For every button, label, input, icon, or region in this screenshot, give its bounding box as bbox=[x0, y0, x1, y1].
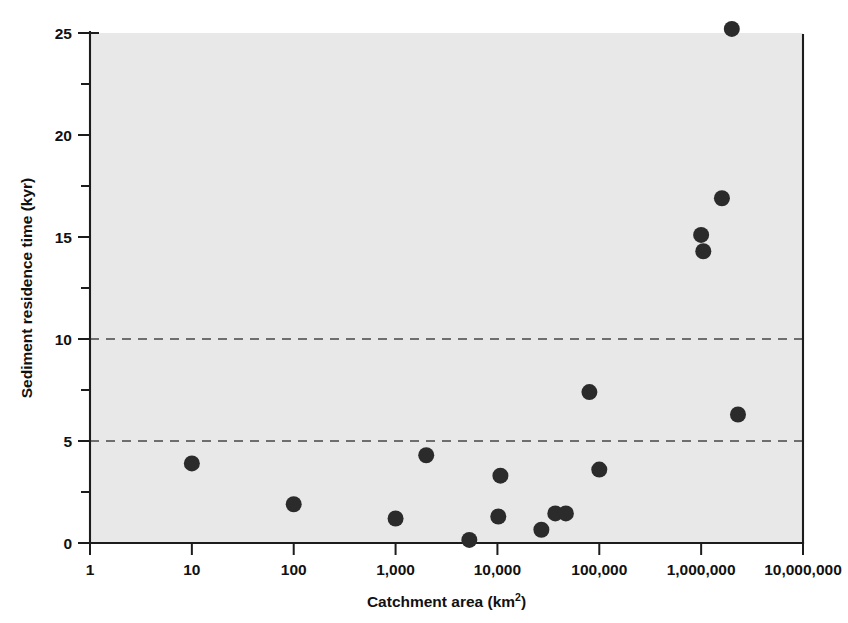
y-tick-label: 0 bbox=[63, 535, 72, 552]
x-axis-tick-labels: 1101001,00010,000100,0001,000,00010,000,… bbox=[86, 561, 842, 578]
x-axis-title-text: Catchment area (km2) bbox=[367, 591, 526, 610]
x-tick-label: 100,000 bbox=[571, 561, 627, 578]
x-axis-title-main: Catchment area (km bbox=[367, 593, 515, 610]
data-point bbox=[730, 406, 746, 422]
data-point bbox=[418, 447, 434, 463]
x-axis-title-suffix: ) bbox=[521, 593, 526, 610]
data-point bbox=[184, 455, 200, 471]
data-point bbox=[714, 190, 730, 206]
data-point bbox=[492, 468, 508, 484]
data-point bbox=[591, 462, 607, 478]
data-point bbox=[286, 496, 302, 512]
data-point bbox=[693, 227, 709, 243]
x-tick-label: 100 bbox=[281, 561, 307, 578]
x-tick-label: 10 bbox=[183, 561, 200, 578]
y-tick-label: 15 bbox=[55, 229, 73, 246]
x-tick-label: 1 bbox=[86, 561, 95, 578]
y-tick-label: 10 bbox=[55, 331, 72, 348]
data-point bbox=[461, 532, 477, 548]
x-tick-label: 1,000,000 bbox=[667, 561, 736, 578]
y-tick-label: 25 bbox=[55, 25, 73, 42]
y-tick-label: 20 bbox=[55, 127, 72, 144]
data-point bbox=[490, 508, 506, 524]
data-point bbox=[581, 384, 597, 400]
x-tick-label: 10,000 bbox=[474, 561, 521, 578]
scatter-chart-figure: 1101001,00010,000100,0001,000,00010,000,… bbox=[0, 0, 848, 623]
x-axis-ticks bbox=[90, 543, 803, 555]
data-point bbox=[388, 511, 404, 527]
y-tick-label: 5 bbox=[63, 433, 72, 450]
data-point bbox=[724, 21, 740, 37]
y-axis-ticks bbox=[78, 33, 90, 543]
x-tick-label: 1,000 bbox=[376, 561, 415, 578]
x-tick-label: 10,000,000 bbox=[764, 561, 842, 578]
y-axis-title-text: Sediment residence time (kyr) bbox=[18, 178, 35, 399]
data-point bbox=[533, 522, 549, 538]
y-axis-title: Sediment residence time (kyr) bbox=[18, 178, 35, 399]
y-axis-tick-labels: 0510152025 bbox=[55, 25, 73, 552]
data-point bbox=[695, 243, 711, 259]
x-axis-title: Catchment area (km2) bbox=[367, 591, 526, 610]
data-point bbox=[558, 505, 574, 521]
scatter-plot-svg: 1101001,00010,000100,0001,000,00010,000,… bbox=[0, 0, 848, 623]
